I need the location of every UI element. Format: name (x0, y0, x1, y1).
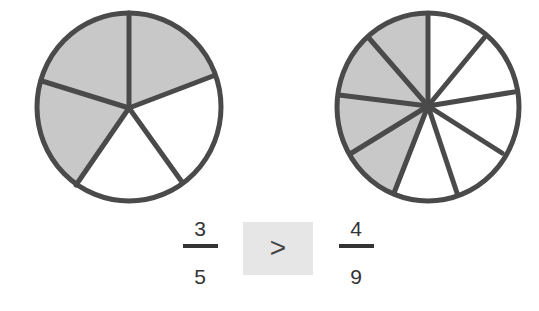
fraction-bar (339, 244, 374, 248)
numerator: 3 (180, 218, 220, 239)
greater-than-symbol: > (243, 234, 313, 262)
fraction-bar (183, 244, 218, 248)
right-pie-ninths (300, 0, 539, 215)
denominator: 9 (336, 266, 376, 287)
left-pie-fifths (0, 0, 260, 215)
denominator: 5 (180, 266, 220, 287)
comparison-box: > (243, 222, 313, 275)
numerator: 4 (336, 218, 376, 239)
